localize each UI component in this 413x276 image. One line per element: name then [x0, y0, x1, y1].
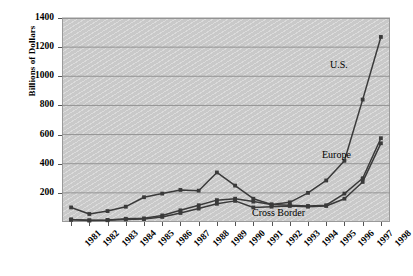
x-tick-label: 1996 — [356, 228, 377, 249]
x-tick-mark — [363, 222, 364, 226]
x-tick-mark — [144, 222, 145, 226]
x-tick-mark — [272, 222, 273, 226]
x-tick-mark — [199, 222, 200, 226]
x-tick-label: 1993 — [301, 228, 322, 249]
x-tick-mark — [89, 222, 90, 226]
x-tick-mark — [344, 222, 345, 226]
x-tick-mark — [326, 222, 327, 226]
x-tick-label: 1986 — [174, 228, 195, 249]
y-tick-label: 800 — [10, 100, 54, 110]
x-tick-mark — [290, 222, 291, 226]
x-tick-label: 1981 — [83, 228, 104, 249]
x-tick-mark — [235, 222, 236, 226]
series-label-cross-border: Cross Border — [252, 208, 305, 218]
x-tick-label: 1983 — [119, 228, 140, 249]
y-tick-label: 1000 — [10, 71, 54, 81]
series-label-europe: Europe — [322, 150, 351, 160]
x-tick-label: 1987 — [192, 228, 213, 249]
x-tick-mark — [253, 222, 254, 226]
y-tick-label: 1400 — [10, 13, 54, 23]
x-tick-mark — [71, 222, 72, 226]
x-tick-mark — [308, 222, 309, 226]
x-tick-label: 1998 — [392, 228, 413, 249]
y-tick-label: 1200 — [10, 42, 54, 52]
x-tick-label: 1984 — [137, 228, 158, 249]
x-tick-mark — [126, 222, 127, 226]
x-tick-mark — [108, 222, 109, 226]
x-tick-label: 1989 — [228, 228, 249, 249]
x-tick-label: 1997 — [374, 228, 395, 249]
plot-area — [62, 18, 390, 222]
x-tick-label: 1995 — [338, 228, 359, 249]
y-tick-label: 400 — [10, 159, 54, 169]
x-tick-mark — [180, 222, 181, 226]
x-tick-label: 1985 — [156, 228, 177, 249]
x-tick-mark — [217, 222, 218, 226]
x-tick-label: 1994 — [320, 228, 341, 249]
x-tick-mark — [162, 222, 163, 226]
x-tick-label: 1988 — [210, 228, 231, 249]
x-tick-label: 1992 — [283, 228, 304, 249]
y-tick-label: 200 — [10, 188, 54, 198]
y-tick-label: 600 — [10, 130, 54, 140]
x-tick-mark — [381, 222, 382, 226]
x-tick-label: 1991 — [265, 228, 286, 249]
series-label-u-s: U.S. — [330, 60, 348, 70]
plot-svg — [62, 18, 390, 222]
x-tick-label: 1990 — [247, 228, 268, 249]
x-tick-label: 1982 — [101, 228, 122, 249]
